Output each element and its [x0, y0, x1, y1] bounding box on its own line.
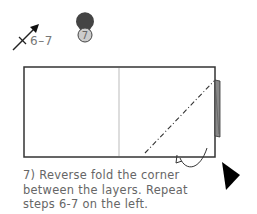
caption-line: 7) Reverse fold the corner — [23, 168, 253, 183]
step-badge-number: 7 — [82, 30, 88, 41]
step-badge: 7 — [76, 12, 94, 42]
repeat-steps-label: 6–7 — [30, 34, 53, 48]
paper-model — [24, 67, 220, 167]
caption-line: between the layers. Repeat — [23, 183, 253, 198]
caption-line: steps 6-7 on the left. — [23, 197, 253, 212]
instruction-caption: 7) Reverse fold the corner between the l… — [23, 168, 253, 212]
